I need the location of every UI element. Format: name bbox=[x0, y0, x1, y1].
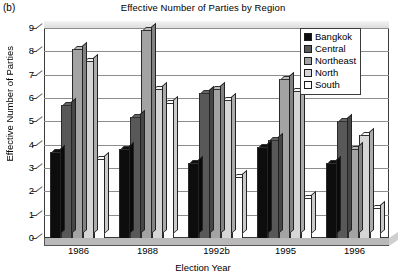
legend-item: Northeast bbox=[304, 55, 356, 67]
bar-side-face bbox=[380, 200, 385, 234]
y-tick-depth-line bbox=[36, 117, 43, 123]
legend-item: South bbox=[304, 79, 356, 91]
y-tick-depth-line bbox=[36, 70, 43, 76]
legend-item: North bbox=[304, 67, 356, 79]
y-tick-depth-line bbox=[36, 187, 43, 193]
bar-side-face bbox=[173, 95, 178, 234]
bar-side-face bbox=[300, 84, 305, 234]
legend-label: Central bbox=[315, 44, 346, 54]
bar-side-face bbox=[151, 23, 156, 234]
legend-item: Bangkok bbox=[304, 31, 356, 43]
bar-side-face bbox=[278, 133, 283, 234]
legend-swatch bbox=[304, 81, 312, 89]
bar-side-face bbox=[336, 156, 341, 234]
bar-side-face bbox=[289, 72, 294, 234]
bar bbox=[326, 163, 337, 238]
x-axis-label: Election Year bbox=[0, 262, 406, 273]
chart-title: Effective Number of Parties by Region bbox=[0, 2, 406, 13]
y-tick-label: 4 bbox=[4, 139, 34, 150]
bar-side-face bbox=[198, 156, 203, 234]
bar-side-face bbox=[267, 140, 272, 234]
bar-side-face bbox=[162, 81, 167, 234]
y-tick-label: 9 bbox=[4, 22, 34, 33]
bar-side-face bbox=[231, 93, 236, 234]
legend-label: South bbox=[315, 80, 340, 90]
bar-side-face bbox=[93, 53, 98, 234]
legend-label: North bbox=[315, 68, 338, 78]
y-tick-depth-line bbox=[36, 163, 43, 169]
bar-side-face bbox=[311, 191, 316, 234]
legend-item: Central bbox=[304, 43, 356, 55]
legend-label: Northeast bbox=[315, 56, 356, 66]
y-tick-depth-line bbox=[36, 93, 43, 99]
legend-swatch bbox=[304, 69, 312, 77]
x-tick-label: 1988 bbox=[113, 245, 182, 256]
legend-swatch bbox=[304, 33, 312, 41]
legend: BangkokCentralNortheastNorthSouth bbox=[300, 28, 361, 95]
x-tick-label: 1995 bbox=[251, 245, 320, 256]
x-tick-label: 1996 bbox=[320, 245, 389, 256]
plot-top-wall bbox=[44, 21, 389, 28]
y-tick-label: 2 bbox=[4, 185, 34, 196]
bar bbox=[188, 163, 199, 238]
bar bbox=[257, 147, 268, 238]
bar-side-face bbox=[242, 170, 247, 234]
bar-side-face bbox=[71, 98, 76, 234]
y-tick-label: 5 bbox=[4, 115, 34, 126]
bar-side-face bbox=[140, 109, 145, 234]
legend-swatch bbox=[304, 45, 312, 53]
y-tick-label: 7 bbox=[4, 69, 34, 80]
y-tick-depth-line bbox=[36, 140, 43, 146]
x-tick-label: 1992b bbox=[182, 245, 251, 256]
y-tick-label: 6 bbox=[4, 92, 34, 103]
y-tick-depth-line bbox=[36, 210, 43, 216]
legend-swatch bbox=[304, 57, 312, 65]
bar bbox=[50, 152, 61, 238]
bar-side-face bbox=[82, 42, 87, 234]
plot-floor-side bbox=[389, 232, 398, 246]
y-tick-label: 8 bbox=[4, 45, 34, 56]
bar-side-face bbox=[347, 114, 352, 234]
legend-label: Bangkok bbox=[315, 32, 352, 42]
y-tick-label: 3 bbox=[4, 162, 34, 173]
bar-side-face bbox=[60, 144, 65, 234]
bar-side-face bbox=[220, 81, 225, 234]
bar-side-face bbox=[129, 142, 134, 234]
bar-side-face bbox=[209, 86, 214, 234]
y-tick-label: 1 bbox=[4, 209, 34, 220]
bar-side-face bbox=[358, 142, 363, 234]
y-tick-depth-line bbox=[36, 23, 43, 29]
x-tick-label: 1986 bbox=[44, 245, 113, 256]
y-tick-label: 0 bbox=[4, 232, 34, 243]
y-tick-depth-line bbox=[36, 47, 43, 53]
bar-side-face bbox=[369, 128, 374, 234]
chart-figure: (b) Effective Number of Parties by Regio… bbox=[0, 0, 406, 276]
bar-side-face bbox=[104, 151, 109, 234]
bar bbox=[119, 149, 130, 238]
y-tick-depth-line bbox=[36, 233, 43, 239]
